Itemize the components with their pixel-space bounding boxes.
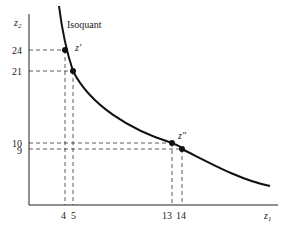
x-tick-4: 4 [61, 210, 66, 221]
x-tick-5: 5 [71, 210, 76, 221]
curve-label: Isoquant [67, 19, 102, 30]
y-axis-label: z2 [13, 17, 22, 30]
point-13-10 [169, 140, 175, 146]
y-tick-24: 24 [12, 45, 22, 56]
guide-lines [29, 50, 182, 205]
y-tick-21: 21 [12, 66, 22, 77]
isoquant-chart: Isoquant z′ z″ z2 z1 24 21 10 9 4 5 13 1… [0, 0, 294, 230]
point-z-double-prime [179, 146, 185, 152]
z-double-prime-label: z″ [177, 130, 187, 141]
x-tick-14: 14 [176, 210, 186, 221]
point-z-prime [62, 47, 68, 53]
point-5-21 [70, 68, 76, 74]
y-tick-9: 9 [17, 145, 22, 156]
x-axis-label: z1 [263, 210, 271, 223]
isoquant-curve [59, 6, 270, 186]
z-prime-label: z′ [74, 42, 82, 53]
x-tick-13: 13 [162, 210, 172, 221]
